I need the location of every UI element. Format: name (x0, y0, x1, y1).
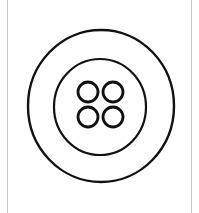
button-outer-rim (28, 30, 174, 182)
button-hole (103, 82, 123, 102)
button-hole (103, 107, 123, 127)
button-hole (78, 82, 98, 102)
button-hole (78, 107, 98, 127)
button-inner-ring (54, 59, 146, 155)
button-holes (78, 82, 123, 127)
button-illustration (0, 0, 199, 213)
